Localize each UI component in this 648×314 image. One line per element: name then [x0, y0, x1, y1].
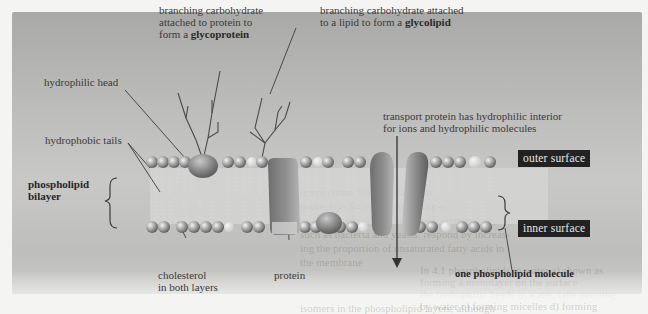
peripheral-protein-inner [316, 212, 342, 234]
label-glycoprotein: branching carbohydrate attached to prote… [159, 4, 263, 40]
label-cholesterol: cholesterol in both layers [158, 269, 218, 293]
label-transport-protein: transport protein has hydrophilic interi… [383, 110, 562, 134]
glycolipid-carbohydrate [250, 98, 290, 158]
arrow-down-icon [392, 258, 402, 268]
bilayer-brace [105, 178, 117, 228]
tag-inner-surface: inner surface [518, 220, 590, 237]
label-glycolipid: branching carbohydrate attached to a lip… [320, 4, 464, 28]
label-hydrophobic-tails: hydrophobic tails [45, 134, 122, 146]
glycoprotein-blob [188, 154, 218, 178]
transport-protein-left [370, 152, 394, 236]
label-protein: protein [274, 269, 305, 281]
leader-one-phospholipid [505, 228, 512, 270]
leader-hydrophilic-head [125, 90, 185, 158]
label-phospholipid-bilayer: phospholipid bilayer [28, 178, 89, 202]
tag-outer-surface: outer surface [518, 150, 590, 167]
label-hydrophilic-head: hydrophilic head [44, 76, 118, 88]
label-one-phospholipid: one phospholipid molecule [455, 268, 574, 280]
leader-glycolipid [270, 28, 296, 94]
glycoprotein-carbohydrate [178, 71, 220, 160]
